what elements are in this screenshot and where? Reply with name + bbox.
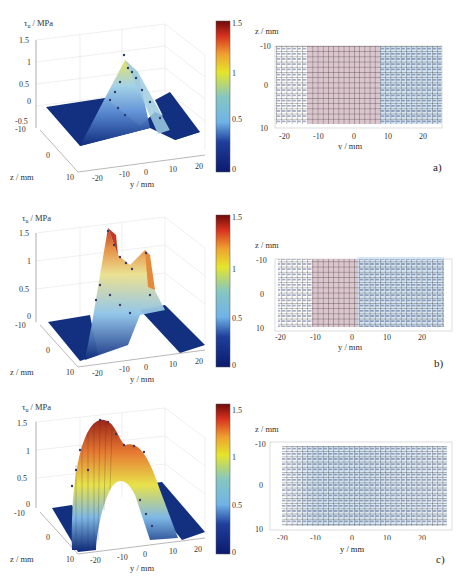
tick: -10 <box>119 365 130 374</box>
svg-text:τu / MPa: τu / MPa <box>22 213 51 224</box>
tick: 10 <box>66 368 74 377</box>
surface-ridge <box>85 228 165 360</box>
panel-label-c: c) <box>436 553 445 565</box>
tick: -10 <box>15 125 26 134</box>
tick: 1 <box>232 265 236 274</box>
z-mm-label: z / mm <box>255 26 279 36</box>
tick: 20 <box>419 132 427 141</box>
tick: 0 <box>27 97 31 106</box>
tick: 1.5 <box>232 213 242 222</box>
tick: 0.5 <box>232 115 242 124</box>
tick: -10 <box>15 321 26 330</box>
panel-b-mesh-plot: z / mm -10 0 10 -20 -10 0 10 20 y / mm <box>250 225 465 355</box>
tick: 0.5 <box>19 285 29 294</box>
tick: 10 <box>384 132 392 141</box>
tick: 10 <box>169 547 177 556</box>
panel-b-surface-plot: τu / MPa 1.5 1 0.5 0 -10 0 10 z / mm -20… <box>0 195 250 390</box>
tick: 0 <box>27 312 31 321</box>
colorbar <box>216 21 230 172</box>
tick: -10 <box>313 132 324 141</box>
tick: -10 <box>310 534 321 540</box>
y-mm-label: y / mm <box>130 563 154 573</box>
surface-plot-a-svg: τu / MPa 1.5 1 0.5 0 -0.5 -10 0 10 z / m… <box>0 0 250 195</box>
tick: -20 <box>92 369 103 378</box>
y-mm-label: y / mm <box>130 374 154 384</box>
tick: 0 <box>46 151 50 160</box>
tick: -10 <box>255 440 266 449</box>
panel-label-b: b) <box>434 357 443 369</box>
panel-a-surface-plot: τu / MPa 1.5 1 0.5 0 -0.5 -10 0 10 z / m… <box>0 0 250 195</box>
panel-label-a: a) <box>433 161 442 173</box>
tick: 20 <box>194 545 202 554</box>
tick: 10 <box>255 525 263 534</box>
tick: 0 <box>46 346 50 355</box>
tick: 0 <box>143 550 147 559</box>
tick: 0 <box>260 290 264 299</box>
tick: 0 <box>352 132 356 141</box>
tick: 0.5 <box>232 501 242 510</box>
z-mm-label: z / mm <box>10 172 34 182</box>
tick: 10 <box>66 555 74 564</box>
tick: 1.5 <box>19 229 29 238</box>
tick: -10 <box>260 42 271 51</box>
tick: 0 <box>350 333 354 342</box>
tick: 0 <box>232 548 236 557</box>
tick: 1 <box>27 58 31 67</box>
tick: -20 <box>279 132 290 141</box>
tick: 0 <box>259 481 263 490</box>
tick: 20 <box>195 162 203 171</box>
tick: 1 <box>232 453 236 462</box>
svg-text:τu / MPa: τu / MPa <box>22 402 51 413</box>
colorbar <box>216 404 230 554</box>
tick: 0 <box>232 165 236 174</box>
tick: 1.5 <box>232 19 242 28</box>
tick: 0 <box>46 533 50 542</box>
tick: -10 <box>256 256 267 265</box>
tick: 0 <box>264 81 268 90</box>
tick: 1 <box>232 69 236 78</box>
tick: -20 <box>275 333 286 342</box>
tick: 0.5 <box>232 314 242 323</box>
tick: 0 <box>232 361 236 370</box>
tick: 0 <box>144 363 148 372</box>
z-axis-label: τu / MPa <box>24 18 53 29</box>
tick: 20 <box>418 534 426 540</box>
z-mm-label: z / mm <box>255 240 279 250</box>
tick: -10 <box>117 553 128 562</box>
tick: -20 <box>277 534 288 540</box>
y-mm-label: y / mm <box>338 342 362 352</box>
z-mm-label: z / mm <box>10 367 34 377</box>
tick: 10 <box>260 124 268 133</box>
tick: 1 <box>27 257 31 266</box>
z-mm-label: z / mm <box>10 554 34 564</box>
tick: 20 <box>418 333 426 342</box>
tick: 1.5 <box>19 36 29 45</box>
panel-c-surface-plot: τu / MPa 1.5 1 0.5 0 -10 0 10 z / mm -20… <box>0 390 250 576</box>
y-mm-label: y / mm <box>130 179 154 189</box>
tick: 0 <box>26 500 30 509</box>
tick: 10 <box>383 333 391 342</box>
tick: 10 <box>66 173 74 182</box>
z-mm-label: z / mm <box>255 424 279 434</box>
tick: 10 <box>383 534 391 540</box>
tick: 0.5 <box>17 474 27 483</box>
tick: -10 <box>310 333 321 342</box>
tick: 20 <box>195 357 203 366</box>
tick: 1.5 <box>232 406 242 415</box>
tick: -20 <box>90 556 101 565</box>
panel-a-mesh-plot: z / mm -10 0 10 -20 -10 0 10 20 y / mm <box>250 20 465 150</box>
tick: -10 <box>119 170 130 179</box>
tick: 1 <box>26 447 30 456</box>
tick: -20 <box>92 174 103 183</box>
tick: 1.5 <box>17 419 27 428</box>
tick: 10 <box>169 360 177 369</box>
tick: 10 <box>169 165 177 174</box>
colorbar <box>216 215 230 367</box>
tick: 10 <box>256 324 264 333</box>
y-mm-label-c: y / mm <box>340 538 364 556</box>
panel-c-mesh-plot: z / mm -10 0 10 -20 -10 0 10 20 <box>250 420 465 540</box>
tick: -10 <box>14 509 25 518</box>
y-mm-label: y / mm <box>338 141 362 150</box>
y-mm-label: y / mm <box>340 544 364 554</box>
tick: 0 <box>144 168 148 177</box>
